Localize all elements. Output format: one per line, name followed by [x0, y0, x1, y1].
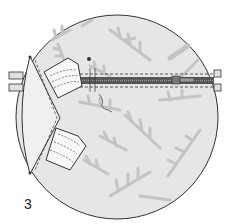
sewing-diagram: [0, 0, 228, 224]
left-zipper-end-tabs: [9, 72, 23, 91]
pin-marker: [87, 57, 91, 61]
step-number: 3: [24, 196, 32, 212]
right-zipper-end-tabs: [214, 70, 221, 91]
